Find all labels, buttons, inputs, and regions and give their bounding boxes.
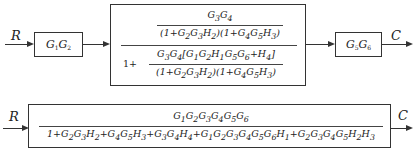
feedback-denominator: (1+G2G3H2)(1+G4G5H3): [156, 66, 276, 81]
arrowhead-icon: [406, 41, 413, 47]
inner-loop-fraction: G3G4 (1+G2G3H2)(1+G4G5H3): [157, 9, 283, 42]
block-g5g6: G5G6: [335, 32, 382, 57]
inner-denominator: (1+G2G3H2)(1+G4G5H3): [160, 27, 280, 42]
block-closed-loop: G1G2G3G4G5G6 1+G2G3H2+G4G5H3+G3G4H4+G1G2…: [28, 104, 391, 148]
input-arrow-line: [3, 128, 23, 129]
block-g1g2-label: G1G2: [46, 38, 71, 51]
fraction-bar: [39, 126, 383, 127]
feedback-fraction: G3G4[G1G2H1G5G6+H4] (1+G2G3H2)(1+G4G5H3): [141, 48, 291, 81]
block-g5g6-label: G5G6: [346, 38, 371, 51]
input-signal-label: R: [11, 28, 21, 43]
inner-numerator: G3G4: [207, 9, 232, 24]
connector-line: [306, 44, 329, 45]
input-arrow-line: [5, 44, 29, 45]
feedback-numerator: G3G4[G1G2H1G5G6+H4]: [157, 48, 275, 63]
fraction-bar: [157, 25, 283, 26]
block-g1g2: G1G2: [34, 32, 83, 57]
main-fraction-bar: [121, 45, 297, 46]
closed-loop-fraction: G1G2G3G4G5G6 1+G2G3H2+G4G5H3+G3G4H4+G1G2…: [39, 110, 383, 143]
fraction-bar: [149, 64, 283, 65]
arrowhead-icon: [103, 41, 110, 47]
input-signal-label: R: [9, 109, 19, 124]
block-inner-loop: G3G4 (1+G2G3H2)(1+G4G5H3) 1+ G3G4[G1G2H1…: [110, 4, 306, 86]
connector-line: [83, 44, 105, 45]
output-signal-label: C: [391, 28, 401, 43]
closed-loop-denominator: 1+G2G3H2+G4G5H3+G3G4H4+G1G2G3G4G5G6H1+G2…: [47, 128, 375, 143]
lower-prefix: 1+: [123, 58, 137, 69]
arrowhead-icon: [328, 41, 335, 47]
arrowhead-icon: [27, 41, 34, 47]
closed-loop-numerator: G1G2G3G4G5G6: [173, 110, 249, 125]
arrowhead-icon: [406, 125, 413, 131]
output-signal-label: C: [398, 108, 408, 123]
output-arrow-line: [382, 44, 408, 45]
